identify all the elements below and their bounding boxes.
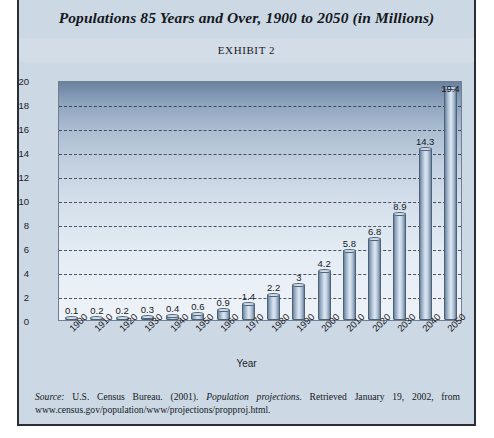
bar-cap — [242, 302, 255, 306]
bar-value-label: 0.2 — [90, 305, 103, 316]
bar — [444, 87, 457, 320]
bar-value-label: 6.8 — [368, 226, 381, 237]
bar-cap — [318, 269, 331, 273]
bar-value-label: 4.2 — [318, 258, 331, 269]
bar-cap — [217, 308, 230, 312]
y-axis-tick-label: 12 — [5, 172, 29, 183]
y-axis-tick-label: 6 — [5, 244, 29, 255]
y-axis-tick-label: 14 — [5, 148, 29, 159]
gridline — [59, 106, 461, 107]
y-axis-tick-label: 2 — [5, 292, 29, 303]
y-axis-tick-label: 20 — [5, 76, 29, 87]
bar — [343, 250, 356, 320]
bar-cap — [419, 147, 432, 151]
source-citation: Source: U.S. Census Bureau. (2001). Popu… — [35, 390, 460, 416]
source-prefix: Source: — [35, 391, 64, 402]
bar-value-label: 19.4 — [441, 83, 460, 94]
plot-frame: 0.10.20.20.30.40.60.91.42.234.25.86.88.9… — [58, 81, 462, 321]
bar-value-label: 5.8 — [343, 238, 356, 249]
source-title-italic: Population projections. — [206, 391, 302, 402]
gridline — [59, 130, 461, 131]
bar-value-label: 0.3 — [141, 304, 154, 315]
y-axis-tick-label: 4 — [5, 268, 29, 279]
bar-value-label: 14.3 — [416, 136, 435, 147]
bar-value-label: 0.1 — [65, 305, 78, 316]
bar-value-label: 2.2 — [267, 282, 280, 293]
y-axis-tick-label: 10 — [5, 196, 29, 207]
bar-value-label: 0.4 — [166, 303, 179, 314]
bar-value-label: 1.4 — [242, 291, 255, 302]
y-axis-tick-label: 16 — [5, 124, 29, 135]
exhibit-band: EXHIBIT 2 — [19, 38, 474, 62]
exhibit-document: Populations 85 Years and Over, 1900 to 2… — [17, 0, 476, 426]
bar — [393, 213, 406, 320]
y-axis-tick-label: 18 — [5, 100, 29, 111]
y-axis-tick-label: 8 — [5, 220, 29, 231]
title-band: Populations 85 Years and Over, 1900 to 2… — [19, 0, 474, 38]
bar-cap — [292, 283, 305, 287]
page-title: Populations 85 Years and Over, 1900 to 2… — [59, 9, 435, 27]
bar — [318, 270, 331, 320]
bar-value-label: 8.9 — [393, 201, 406, 212]
bar-cap — [368, 237, 381, 241]
bar-value-label: 0.6 — [191, 301, 204, 312]
x-axis-title: Year — [19, 358, 474, 369]
bar-value-label: 0.9 — [217, 297, 230, 308]
bar — [368, 238, 381, 320]
bar-value-label: 3 — [296, 272, 301, 283]
source-band: Source: U.S. Census Bureau. (2001). Popu… — [19, 382, 474, 424]
y-axis-tick-label: 0 — [5, 316, 29, 327]
bar-cap — [267, 293, 280, 297]
bar-cap — [343, 249, 356, 253]
gridline — [59, 154, 461, 155]
gridline — [59, 178, 461, 179]
bar — [419, 148, 432, 320]
source-body-first: U.S. Census Bureau. (2001). — [64, 391, 206, 402]
chart-area: 0.10.20.20.30.40.60.91.42.234.25.86.88.9… — [19, 62, 474, 382]
page: Populations 85 Years and Over, 1900 to 2… — [0, 0, 494, 438]
bar-cap — [393, 212, 406, 216]
exhibit-label: EXHIBIT 2 — [218, 44, 275, 56]
